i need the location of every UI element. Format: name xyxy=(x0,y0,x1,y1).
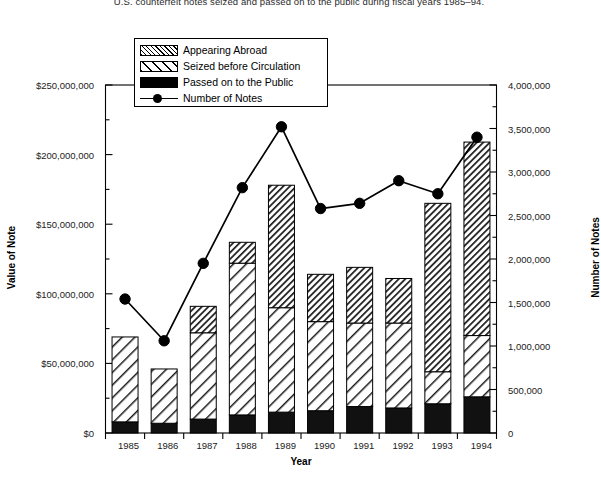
legend-item-number-of-notes: Number of Notes xyxy=(140,90,322,106)
sparse-hatch-swatch-icon xyxy=(140,61,178,72)
legend-item-seized-before-circulation: Seized before Circulation xyxy=(140,58,322,74)
legend-label-1: Seized before Circulation xyxy=(183,61,300,72)
line-marker-swatch-icon xyxy=(140,93,178,104)
legend-label-0: Appearing Abroad xyxy=(183,45,267,56)
legend-item-appearing-abroad: Appearing Abroad xyxy=(140,42,322,58)
legend-item-passed-on-to-the-public: Passed on to the Public xyxy=(140,74,322,90)
legend-label-2: Passed on to the Public xyxy=(183,77,293,88)
bars-layer xyxy=(112,142,490,433)
chart-legend: Appearing Abroad Seized before Circulati… xyxy=(134,38,328,107)
solid-black-swatch-icon xyxy=(140,77,178,88)
dense-hatch-swatch-icon xyxy=(140,45,178,56)
legend-label-3: Number of Notes xyxy=(183,93,262,104)
